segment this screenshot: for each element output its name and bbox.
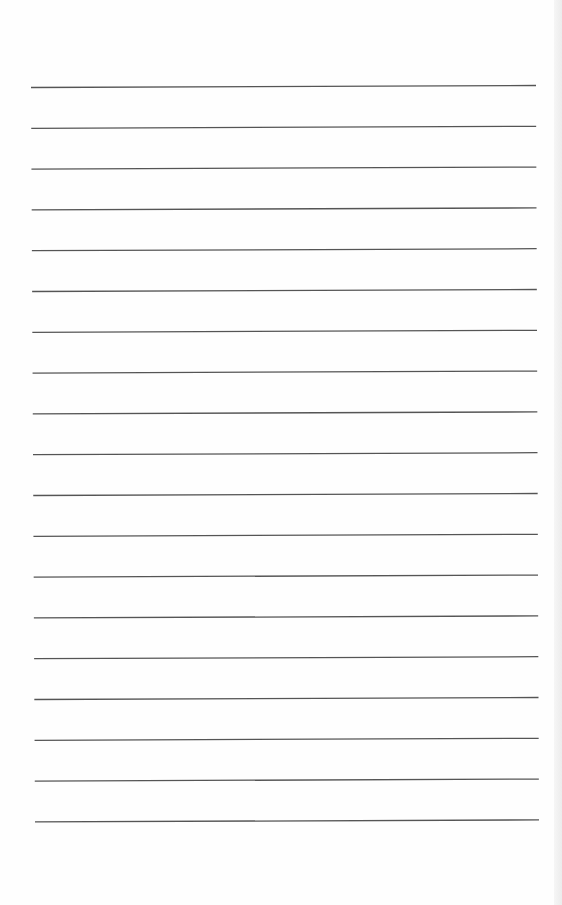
ruled-line (32, 330, 537, 332)
ruled-line (34, 575, 538, 577)
ruled-line (32, 249, 537, 251)
ruled-line (31, 126, 536, 128)
ruled-lines (0, 0, 562, 905)
ruled-line (33, 412, 538, 414)
ruled-line (33, 453, 538, 455)
ruled-line (35, 779, 539, 781)
ruled-page (0, 0, 562, 905)
ruled-line (33, 371, 538, 373)
ruled-line (33, 494, 537, 496)
ruled-line (31, 167, 536, 169)
ruled-line (35, 820, 539, 822)
ruled-line (35, 738, 539, 740)
ruled-line (34, 657, 538, 659)
ruled-line (33, 534, 537, 536)
ruled-line (31, 86, 536, 88)
ruled-line (34, 698, 538, 700)
ruled-line (34, 616, 538, 618)
ruled-line (32, 208, 537, 210)
ruled-line (32, 290, 537, 292)
